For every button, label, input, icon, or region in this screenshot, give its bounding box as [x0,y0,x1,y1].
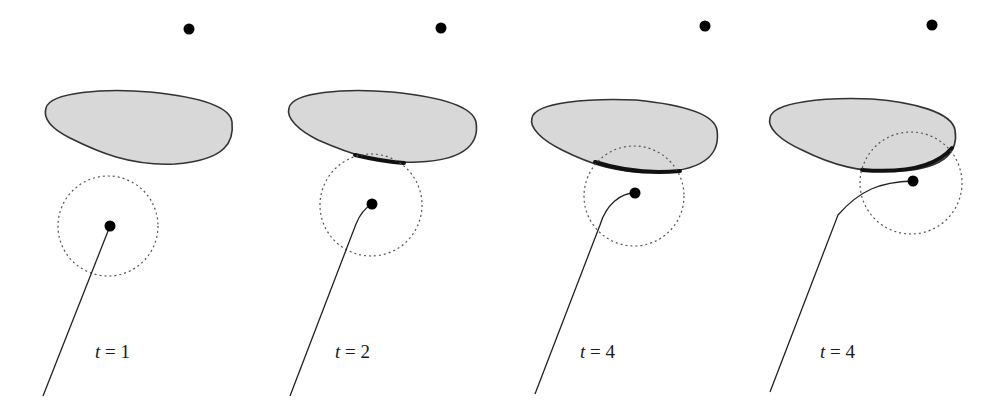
time-label: t = 4 [820,341,856,362]
time-label: t = 1 [95,341,130,362]
figure-canvas: t = 1 t = 2 t = 4 t = 4 [0,0,1001,414]
goal-point [700,21,711,32]
goal-point [184,24,195,35]
goal-point [436,23,447,34]
goal-point [927,20,938,31]
time-label: t = 4 [580,341,616,362]
robot-point [367,199,378,210]
time-label: t = 2 [335,341,370,362]
robot-point [908,176,919,187]
robot-point [105,221,116,232]
robot-point [630,188,641,199]
